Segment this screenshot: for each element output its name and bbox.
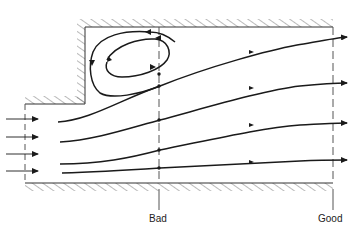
bad-dot xyxy=(157,148,160,151)
top-wall-hatch xyxy=(85,19,333,27)
channel-walls xyxy=(25,19,333,191)
inlet-arrows xyxy=(6,119,38,171)
streamline-3 xyxy=(60,123,347,164)
vortex-arrow xyxy=(145,29,151,35)
bad-dot xyxy=(157,72,160,75)
bad-dot xyxy=(157,118,160,121)
streamline-1 xyxy=(58,37,347,122)
streamlines xyxy=(58,37,347,173)
recirculation-vortex xyxy=(89,29,175,96)
flow-arrow xyxy=(249,50,254,54)
flow-arrow xyxy=(249,86,254,90)
step-vertical-hatch xyxy=(77,19,85,104)
flow-arrow xyxy=(249,123,254,127)
bad-dot xyxy=(157,166,160,169)
bad-dot xyxy=(157,84,160,87)
streamline-2 xyxy=(60,83,347,142)
bad-station-label: Bad xyxy=(149,214,167,224)
bottom-wall-hatch xyxy=(25,183,333,191)
upper-wall-line xyxy=(25,27,333,104)
good-station-label: Good xyxy=(318,214,342,224)
flow-diagram xyxy=(0,0,363,239)
vortex-inner-loop xyxy=(106,39,169,77)
step-horizontal-hatch xyxy=(25,96,85,104)
streamline-dots xyxy=(157,50,254,170)
